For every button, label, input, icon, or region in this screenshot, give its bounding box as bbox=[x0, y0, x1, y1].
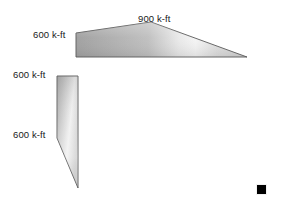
label-horizontal-peak-moment: 900 k-ft bbox=[138, 13, 170, 24]
label-vertical-top-moment: 600 k-ft bbox=[13, 69, 45, 80]
horizontal-moment-diagram bbox=[76, 22, 247, 57]
bending-moment-figure: 600 k-ft 900 k-ft 600 k-ft 600 k-ft bbox=[0, 0, 283, 204]
label-vertical-mid-moment: 600 k-ft bbox=[13, 129, 45, 140]
corner-square-marker bbox=[256, 184, 267, 195]
label-horizontal-left-moment: 600 k-ft bbox=[33, 29, 65, 40]
vertical-moment-shading bbox=[57, 76, 78, 188]
horizontal-moment-shading bbox=[76, 22, 247, 57]
vertical-moment-diagram bbox=[57, 76, 78, 188]
